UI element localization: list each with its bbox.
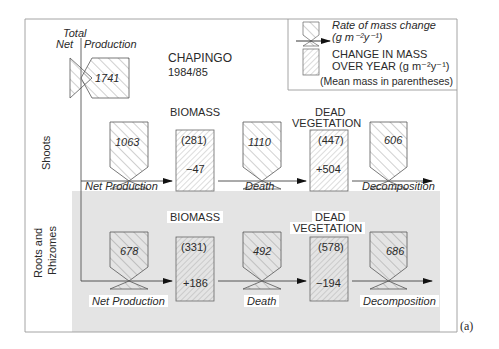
roots-death-label: Death [244,295,279,307]
legend-rate-units: (g m⁻²y⁻¹) [332,31,383,43]
shoots-biomass-heading: BIOMASS [170,106,220,118]
net-label: Net [56,38,73,50]
flow-diagram: Total Net Production 1741 CHAPINGO 1984/… [0,0,499,349]
roots-death-value: 492 [253,245,271,257]
shoots-death-label: Death [245,180,274,192]
legend-change-units: OVER YEAR (g m⁻²y⁻¹) [332,60,450,72]
shoots-dead-heading-2: VEGETATION [292,117,361,129]
roots-dead-change: −194 [316,277,341,289]
roots-biomass-heading: BIOMASS [167,211,223,223]
shoots-decomposition-value: 606 [384,134,402,146]
panel-label: (a) [460,320,473,332]
roots-row-label-1: Roots and [32,228,44,278]
shoots-decomposition-label: Decomposition [362,180,435,192]
roots-row-label-2: Rhizomes [46,226,58,275]
shoots-dead-mean: (447) [318,134,344,146]
shoots-decomposition-valve-top [370,122,407,181]
legend-change-label: CHANGE IN MASS [332,48,427,60]
shoots-biomass-mean: (281) [181,134,207,146]
roots-decomposition-label: Decomposition [360,295,439,307]
roots-net-production-label: Net Production [89,295,168,307]
roots-net-production-value: 678 [120,245,138,257]
shoots-net-production-label: Net Production [85,180,158,192]
total-net-production-value: 1741 [95,72,119,84]
roots-dead-heading-2: VEGETATION [290,222,365,234]
roots-decomposition-value: 686 [386,245,404,257]
legend-mean-note: (Mean mass in parentheses) [320,75,453,87]
roots-biomass-change: +186 [183,277,208,289]
legend-rate-label: Rate of mass change [332,19,436,31]
shoots-death-value: 1110 [248,136,271,148]
shoots-row-label: Shoots [40,136,52,170]
shoots-dead-change: +504 [316,163,341,175]
site-period: 1984/85 [168,66,208,78]
shoots-death-valve-top [243,122,281,181]
roots-biomass-mean: (331) [181,241,207,253]
site-title: CHAPINGO [168,52,232,64]
legend-rate-icon [296,22,330,46]
roots-dead-mean: (578) [318,241,344,253]
shoots-net-production-value: 1063 [115,136,139,148]
legend-change-icon [303,49,319,75]
production-label: Production [84,38,137,50]
shoots-biomass-change: −47 [186,163,205,175]
shoots-net-production-valve-top [110,122,148,181]
